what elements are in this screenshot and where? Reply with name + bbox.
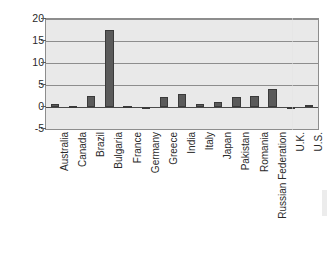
plot-area — [46, 18, 318, 130]
bar-chart-figure: Percent of GDP 20151050-5 AustraliaCanad… — [0, 0, 335, 254]
x-label-slot: Japan — [209, 132, 227, 250]
x-label-slot: Romania — [245, 132, 263, 250]
x-label-slot: Canada — [64, 132, 82, 250]
bar — [268, 89, 276, 107]
bar — [305, 105, 313, 107]
y-tick-mark-20 — [41, 18, 46, 19]
bar — [196, 104, 204, 107]
y-tick-mark-5 — [41, 84, 46, 85]
bar — [250, 96, 258, 107]
bar — [51, 104, 59, 107]
y-tick-mark-10 — [41, 62, 46, 63]
x-tick-label: U.S. — [314, 132, 324, 151]
bar — [287, 107, 295, 109]
scan-artifact — [322, 190, 327, 216]
y-axis-tick-labels: 20151050-5 — [20, 14, 44, 128]
bar-series — [46, 19, 318, 129]
x-label-slot: Bulgaria — [100, 132, 118, 250]
x-label-slot: Germany — [137, 132, 155, 250]
scan-artifact — [292, 18, 293, 130]
x-label-slot: Pakistan — [227, 132, 245, 250]
bar — [69, 106, 77, 108]
bar — [160, 97, 168, 107]
bar — [87, 96, 95, 107]
bar — [214, 102, 222, 107]
x-label-slot: Greece — [155, 132, 173, 250]
y-tick-mark--5 — [41, 128, 46, 129]
x-axis-category-labels: AustraliaCanadaBrazilBulgariaFranceGerma… — [46, 132, 318, 252]
y-tick-mark-15 — [41, 40, 46, 41]
bar — [105, 30, 113, 107]
x-label-slot: U.K. — [282, 132, 300, 250]
bar — [123, 106, 131, 108]
x-label-slot: Italy — [191, 132, 209, 250]
x-label-slot: U.S. — [300, 132, 318, 250]
x-label-slot: Australia — [46, 132, 64, 250]
x-label-slot: France — [119, 132, 137, 250]
plot-right-spine — [318, 18, 319, 130]
bar — [232, 97, 240, 107]
x-label-slot: India — [173, 132, 191, 250]
bar — [142, 107, 150, 109]
y-tick-mark-0 — [41, 106, 46, 107]
x-label-slot: Russian Federation — [264, 132, 282, 250]
bar — [178, 94, 186, 107]
x-label-slot: Brazil — [82, 132, 100, 250]
